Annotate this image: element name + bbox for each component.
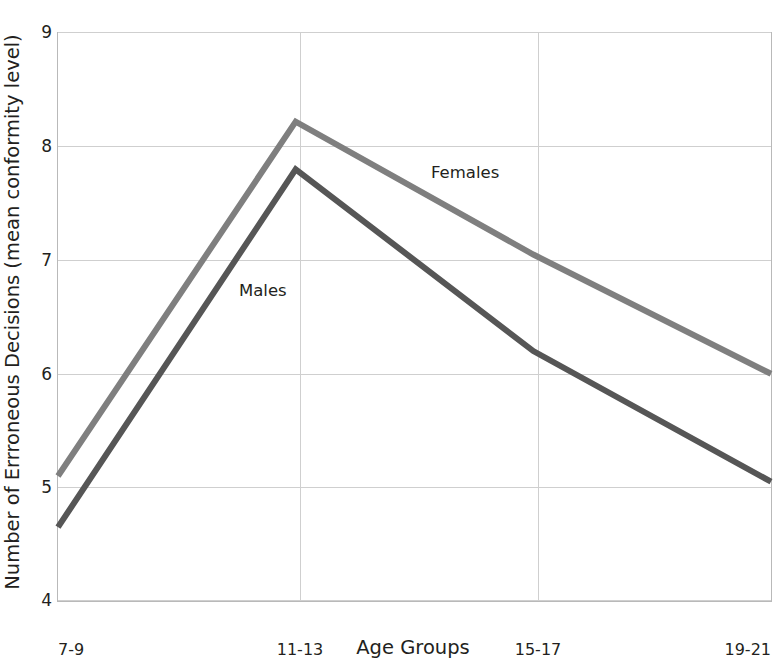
plot-area: 9 8 7 6 5 4 7-9 11-13 15-17 19-21 Female… [57,32,772,602]
chart-title [0,0,783,3]
y-tick-label-7: 7 [12,252,52,269]
series-label-males: Males [239,282,287,300]
series-label-females: Females [431,164,499,182]
y-tick-label-5: 5 [12,479,52,496]
y-axis-title: Number of Errroneous Decisions (mean con… [0,0,26,632]
y-tick-label-6: 6 [12,366,52,383]
x-axis-title: Age Groups [56,636,770,660]
y-tick-label-8: 8 [12,138,52,155]
y-tick-label-9: 9 [12,24,52,41]
series-plot [58,33,771,601]
y-tick-label-4: 4 [12,592,52,609]
series-line-males [58,169,771,527]
line-chart: Number of Errroneous Decisions (mean con… [0,0,783,668]
